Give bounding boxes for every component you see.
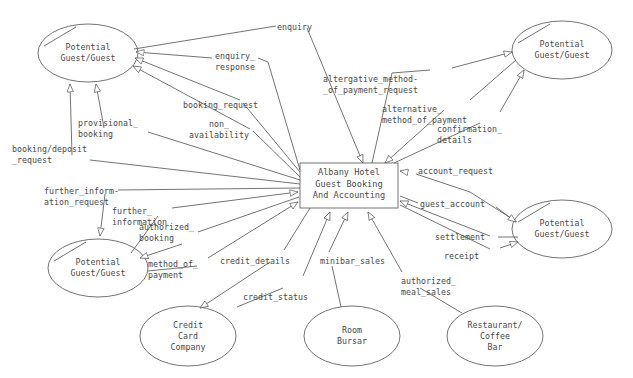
flow-label-credit-details: credit_details (220, 256, 290, 267)
flow-label-authorized-booking: authorized_ booking (139, 222, 194, 243)
flow-label-alt-method-payment: alternative_ method_of_payment (382, 104, 467, 125)
flow-line-enquiry-tail (134, 26, 276, 49)
flow-label-enquiry: enquiry (277, 22, 312, 33)
flow-label-authorized-meal-sales: authorized_ meal_sales (401, 276, 456, 297)
flow-label-guest-account: guest_account (420, 199, 485, 210)
flow-line-minibar-sales (332, 266, 341, 307)
flow-label-enquiry-response: enquiry_ response (215, 51, 255, 72)
flow-line-account-request (416, 174, 517, 222)
flow-line-further-information-head (172, 192, 298, 208)
flow-label-booking-request: booking_request (183, 100, 258, 111)
flow-label-method-of-payment: method_of_ payment (148, 259, 198, 280)
flow-label-booking-deposit-request: booking/deposit _request (12, 144, 87, 165)
process-label-albany-hotel: Albany Hotel Guest Booking And Accountin… (300, 167, 398, 202)
entity-label-room-bursar: Room Bursar (304, 325, 400, 347)
flow-label-further-info-request: further_inform- ation_request (44, 186, 119, 207)
entity-label-credit-card-company: Credit Card Company (140, 320, 236, 352)
flow-line-enquiry (307, 28, 363, 163)
flow-label-settlement: settlement (435, 232, 485, 243)
flow-line-booking-deposit-request (90, 160, 300, 184)
entity-label-potential-guest-top-left: Potential Guest/Guest (38, 42, 138, 64)
flow-line-enquiry-response-tail (258, 58, 300, 170)
flow-line-non-availability (253, 131, 300, 177)
flow-label-alt-method-request: altergative_method- _of_payment_request (323, 74, 418, 95)
entity-label-potential-guest-top-right: Potential Guest/Guest (512, 39, 612, 61)
flow-line-credit-details (284, 208, 310, 250)
flow-label-provisional-booking: provisional_ booking (78, 118, 138, 139)
flow-label-receipt: receipt (444, 251, 479, 262)
entity-label-potential-guest-right: Potential Guest/Guest (512, 218, 612, 240)
flow-line-confirmation-details-head (500, 70, 524, 112)
flow-line-receipt-head (500, 242, 518, 248)
flow-line-account-request-head (400, 171, 406, 172)
flow-line-authorized-booking-head (140, 244, 182, 258)
flow-label-minibar-sales: minibar_sales (320, 256, 385, 267)
flow-label-non-availability: non_ availability (189, 119, 249, 140)
flow-label-confirmation-details: confirmation_ details (437, 124, 502, 145)
flow-line-enquiry-response (136, 52, 212, 58)
flow-line-booking-request (243, 103, 300, 172)
flow-label-credit-status: credit_status (243, 292, 308, 303)
flow-line-alt-method-payment (470, 60, 516, 100)
dfd-canvas: Albany Hotel Guest Booking And Accountin… (0, 0, 633, 378)
flow-line-alt-method-request-head (452, 52, 512, 68)
flow-line-authorized-booking (198, 197, 299, 232)
entity-label-restaurant-coffee-bar: Restaurant/ Coffee Bar (447, 320, 543, 352)
flow-line-further-info-request (118, 188, 300, 190)
flow-label-account-request: account_request (418, 166, 493, 177)
flow-line-minibar-sales-head (329, 212, 348, 252)
entity-label-potential-guest-left: Potential Guest/Guest (48, 257, 148, 279)
